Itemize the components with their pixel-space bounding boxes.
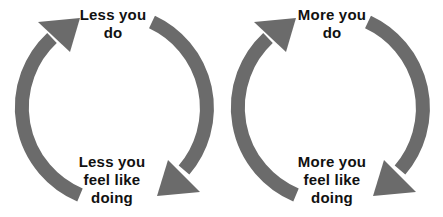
bottom-label: More you feel like doing: [294, 153, 370, 207]
cycle-diagram-more: More you do More you feel like doing: [222, 0, 443, 217]
label-line: Less you: [78, 6, 148, 24]
cycle-diagram-less: Less you do Less you feel like doing: [0, 0, 221, 217]
top-label: Less you do: [78, 6, 148, 42]
label-line: do: [294, 24, 370, 42]
label-line: feel like: [294, 171, 370, 189]
label-line: Less you: [76, 153, 148, 171]
label-line: doing: [76, 189, 148, 207]
label-line: doing: [294, 189, 370, 207]
arc-arrow-down-icon: [152, 22, 207, 170]
label-line: More you: [294, 153, 370, 171]
label-line: More you: [294, 6, 370, 24]
label-line: do: [78, 24, 148, 42]
bottom-label: Less you feel like doing: [76, 153, 148, 207]
label-line: feel like: [76, 171, 148, 189]
top-label: More you do: [294, 6, 370, 42]
arc-arrow-down-icon: [368, 22, 423, 170]
arc-arrow-up-icon: [22, 38, 80, 195]
arc-arrow-up-icon: [238, 38, 296, 195]
